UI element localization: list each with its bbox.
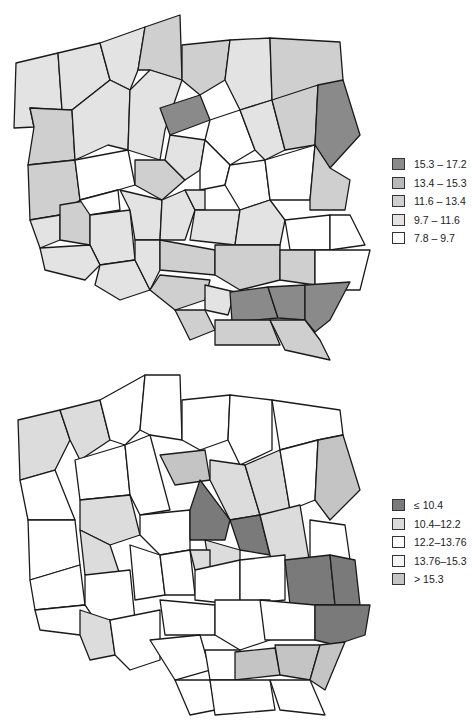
legend-swatch [392,536,405,548]
choropleth-map-bottom [0,370,380,728]
legend-item: 7.8 – 9.7 [392,229,467,248]
legend-label: 15.3 – 17.2 [414,158,467,170]
legend-label: 10.4–12.2 [414,518,461,530]
legend-label: 11.6 – 13.4 [414,195,466,207]
legend-item: ≤ 10.4 [392,496,467,515]
legend-bottom: ≤ 10.4 10.4–12.2 12.2–13.76 13.76–15.3 >… [392,496,467,589]
legend-swatch [392,232,405,244]
legend-item: 11.6 – 13.4 [392,192,467,211]
legend-item: 10.4–12.2 [392,515,467,534]
legend-swatch [392,177,405,189]
legend-label: 7.8 – 9.7 [414,232,455,244]
choropleth-map-top [0,0,380,370]
map-svg-bottom [0,370,380,728]
legend-item: 15.3 – 17.2 [392,155,467,174]
legend-label: > 15.3 [414,573,444,585]
legend-swatch [392,499,405,511]
legend-swatch [392,158,405,170]
map-svg-top [0,0,380,370]
legend-swatch [392,518,405,530]
legend-label: 13.76–15.3 [414,555,467,567]
legend-label: 12.2–13.76 [414,536,467,548]
legend-swatch [392,214,405,226]
legend-item: 13.4 – 15.3 [392,174,467,193]
legend-top: 15.3 – 17.2 13.4 – 15.3 11.6 – 13.4 9.7 … [392,155,467,248]
legend-label: 9.7 – 11.6 [414,214,460,226]
legend-item: 13.76–15.3 [392,552,467,571]
legend-label: 13.4 – 15.3 [414,177,467,189]
legend-swatch [392,195,405,207]
legend-swatch [392,555,405,567]
legend-item: > 15.3 [392,570,467,589]
legend-swatch [392,573,405,585]
legend-item: 9.7 – 11.6 [392,211,467,230]
legend-item: 12.2–13.76 [392,533,467,552]
legend-label: ≤ 10.4 [414,499,443,511]
